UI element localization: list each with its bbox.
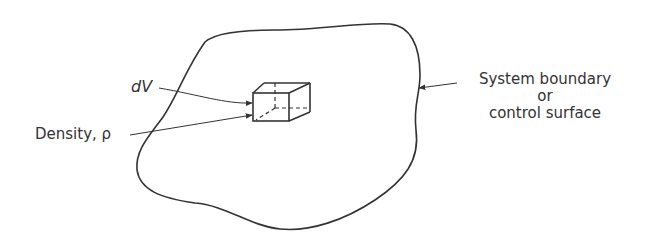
boundary-leader-arrow	[419, 83, 457, 88]
volume-element-cube	[253, 83, 310, 121]
density-leader-arrow	[130, 115, 252, 135]
boundary-label-line1: System boundary	[459, 71, 631, 88]
density-label: Density, ρ	[35, 126, 111, 143]
boundary-label-line2: or	[459, 88, 631, 105]
system-boundary-label: System boundary or control surface	[459, 71, 631, 122]
boundary-label-line3: control surface	[459, 105, 631, 122]
diagram-canvas: dV Density, ρ System boundary or control…	[0, 0, 656, 240]
volume-element-label: dV	[131, 78, 152, 95]
